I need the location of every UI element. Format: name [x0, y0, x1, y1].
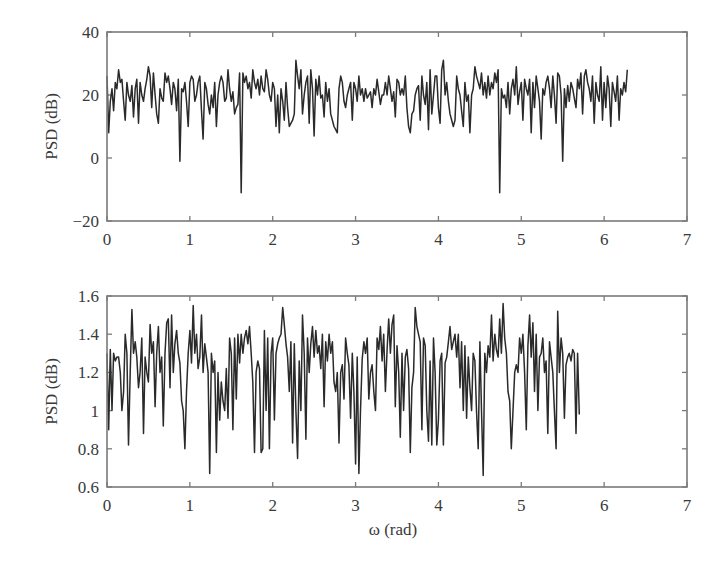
y-tick-label: 1.6 [78, 287, 99, 306]
x-tick-label: 5 [517, 230, 526, 249]
x-tick-label: 4 [434, 496, 443, 515]
top-y-axis-label: PSD (dB) [42, 93, 61, 160]
y-tick-label: −20 [72, 212, 99, 231]
x-tick-label: 0 [103, 496, 112, 515]
y-tick-label: 0.6 [78, 478, 99, 497]
x-tick-label: 3 [351, 496, 360, 515]
x-tick-label: 3 [351, 230, 360, 249]
bottom-psd-line [107, 304, 579, 476]
x-tick-label: 7 [683, 230, 692, 249]
x-tick-label: 4 [434, 230, 443, 249]
top-psd-plot: 01234567−2002040 PSD (dB) [42, 23, 692, 249]
x-tick-label: 6 [600, 230, 609, 249]
bottom-x-axis-label: ω (rad) [369, 520, 417, 539]
y-tick-label: 0 [91, 149, 100, 168]
y-tick-label: 1.2 [78, 363, 99, 382]
top-axes-frame [107, 32, 687, 221]
bottom-y-axis-label: PSD (dB) [42, 358, 61, 425]
top-tick-labels: 01234567−2002040 [72, 23, 691, 249]
y-tick-label: 1 [91, 402, 100, 421]
y-tick-label: 40 [82, 23, 99, 42]
bottom-psd-plot: 012345670.60.811.21.41.6 PSD (dB) ω (rad… [42, 287, 692, 539]
top-axis-ticks [107, 32, 687, 221]
x-tick-label: 5 [517, 496, 526, 515]
x-tick-label: 7 [683, 496, 692, 515]
top-psd-line [107, 60, 627, 192]
figure: 01234567−2002040 PSD (dB) 012345670.60.8… [0, 0, 727, 576]
bottom-tick-labels: 012345670.60.811.21.41.6 [78, 287, 692, 515]
x-tick-label: 6 [600, 496, 609, 515]
x-tick-label: 1 [186, 496, 195, 515]
y-tick-label: 0.8 [78, 440, 99, 459]
x-tick-label: 1 [186, 230, 195, 249]
x-tick-label: 2 [268, 496, 277, 515]
y-tick-label: 20 [82, 86, 99, 105]
x-tick-label: 0 [103, 230, 112, 249]
y-tick-label: 1.4 [78, 325, 100, 344]
x-tick-label: 2 [268, 230, 277, 249]
